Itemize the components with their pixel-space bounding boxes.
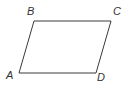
parallelogram-drawing (0, 0, 130, 92)
vertex-label-b: B (27, 6, 34, 17)
parallelogram-outline (19, 21, 111, 73)
geometry-figure: A B C D (0, 0, 130, 92)
vertex-label-a: A (6, 70, 13, 81)
vertex-label-c: C (113, 6, 121, 17)
vertex-label-d: D (97, 72, 105, 83)
